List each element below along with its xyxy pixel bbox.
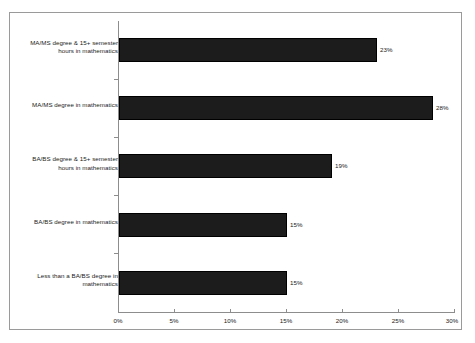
category-label: MA/MS degree & 15+ semester hours in mat… (0, 39, 118, 55)
chart-frame: MA/MS degree & 15+ semester hours in mat… (9, 12, 462, 330)
x-axis-tick-label: 20% (327, 317, 357, 325)
bar-value-label: 15% (290, 221, 302, 229)
category-label-line: Less than a BA/BS degree in (0, 272, 118, 280)
y-axis-tick (114, 137, 118, 138)
x-axis-tick-label: 25% (383, 317, 413, 325)
category-label: BA/BS degree & 15+ semester hours in mat… (0, 155, 118, 171)
category-label: Less than a BA/BS degree in mathematics (0, 272, 118, 288)
bar[interactable] (119, 271, 287, 295)
y-axis-tick (114, 195, 118, 196)
x-axis-tick-label: 5% (159, 317, 189, 325)
bar-row: Less than a BA/BS degree in mathematics … (10, 254, 461, 312)
category-label-line: MA/MS degree in mathematics (0, 101, 118, 109)
bar[interactable] (119, 38, 377, 62)
x-axis-tick (454, 309, 455, 313)
bar-row: BA/BS degree in mathematics 15% (10, 196, 461, 254)
x-axis-tick (230, 309, 231, 313)
y-axis-tick (114, 253, 118, 254)
y-axis-tick (114, 79, 118, 80)
category-label-line: BA/BS degree & 15+ semester (0, 155, 118, 163)
x-axis-tick (174, 309, 175, 313)
category-label: BA/BS degree in mathematics (0, 218, 118, 226)
x-axis-tick-label: 15% (271, 317, 301, 325)
category-label-line: MA/MS degree & 15+ semester (0, 39, 118, 47)
x-axis-tick-label: 0% (103, 317, 133, 325)
x-axis-tick (286, 309, 287, 313)
category-label-line: hours in mathematics (0, 47, 118, 55)
x-axis-tick (118, 309, 119, 313)
category-label-line: BA/BS degree in mathematics (0, 218, 118, 226)
x-axis-tick (398, 309, 399, 313)
bar-row: MA/MS degree & 15+ semester hours in mat… (10, 21, 461, 79)
bar[interactable] (119, 213, 287, 237)
bar-value-label: 23% (380, 46, 392, 54)
bar[interactable] (119, 96, 433, 120)
category-label-line: mathematics (0, 280, 118, 288)
bar-value-label: 28% (436, 104, 448, 112)
plot-area: MA/MS degree & 15+ semester hours in mat… (10, 13, 461, 329)
bar-value-label: 15% (290, 279, 302, 287)
x-axis-tick-label: 10% (215, 317, 245, 325)
bar-value-label: 19% (335, 162, 347, 170)
x-axis-tick-label: 30% (437, 317, 467, 325)
category-label-line: hours in mathematics (0, 164, 118, 172)
bar-row: BA/BS degree & 15+ semester hours in mat… (10, 137, 461, 195)
category-label: MA/MS degree in mathematics (0, 101, 118, 109)
bar[interactable] (119, 154, 332, 178)
bar-row: MA/MS degree in mathematics 28% (10, 79, 461, 137)
x-axis-tick (342, 309, 343, 313)
